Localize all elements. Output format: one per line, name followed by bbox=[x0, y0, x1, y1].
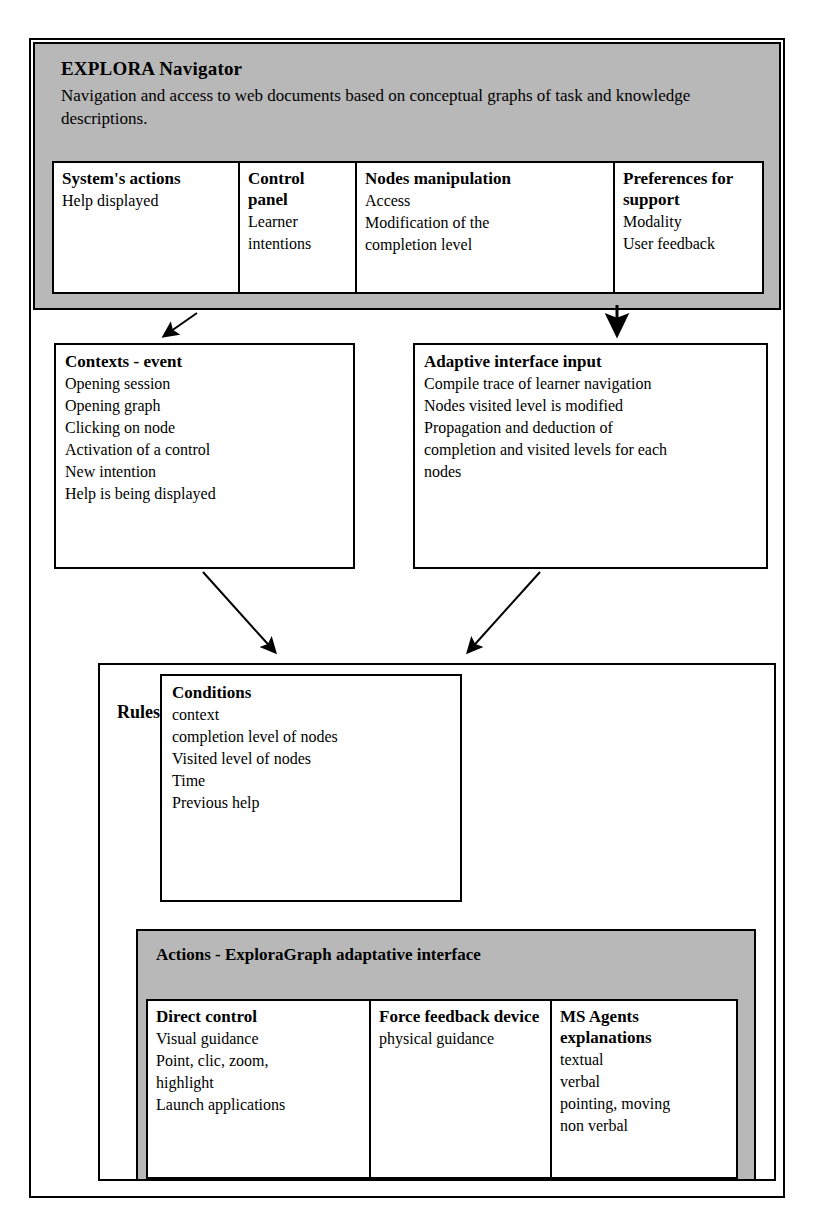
actions-column-title: Direct control bbox=[156, 1006, 361, 1027]
contexts-event-line: Help is being displayed bbox=[65, 483, 344, 505]
adaptive-interface-input-line: Nodes visited level is modified bbox=[424, 395, 757, 417]
page-title: EXPLORA Navigator bbox=[61, 58, 242, 80]
actions-column-line: physical guidance bbox=[379, 1028, 542, 1050]
adaptive-interface-input-box: Adaptive interface input Compile trace o… bbox=[413, 343, 768, 569]
diagram-page: EXPLORA Navigator Navigation and access … bbox=[0, 0, 822, 1223]
actions-column-direct-control: Direct control Visual guidance Point, cl… bbox=[148, 1001, 371, 1177]
header-column-line: Modification of the bbox=[365, 212, 606, 234]
rules-panel: Rules Conditions context completion leve… bbox=[98, 663, 776, 1181]
conditions-line: context bbox=[172, 704, 450, 726]
contexts-event-line: Opening session bbox=[65, 373, 344, 395]
contexts-event-line: New intention bbox=[65, 461, 344, 483]
contexts-event-box: Contexts - event Opening session Opening… bbox=[54, 343, 355, 569]
actions-column-line: non verbal bbox=[560, 1115, 728, 1137]
rules-label: Rules bbox=[117, 702, 160, 723]
actions-column-force-feedback-device: Force feedback device physical guidance bbox=[371, 1001, 552, 1177]
actions-column-line: textual bbox=[560, 1049, 728, 1071]
conditions-line: Previous help bbox=[172, 792, 450, 814]
conditions-line: Visited level of nodes bbox=[172, 748, 450, 770]
page-subtitle: Navigation and access to web documents b… bbox=[61, 84, 761, 130]
header-column-title: Preferences for support bbox=[623, 168, 755, 210]
actions-column-line: highlight bbox=[156, 1072, 361, 1094]
adaptive-interface-input-line: Compile trace of learner navigation bbox=[424, 373, 757, 395]
contexts-event-title: Contexts - event bbox=[65, 351, 344, 372]
conditions-line: completion level of nodes bbox=[172, 726, 450, 748]
explora-navigator-panel: EXPLORA Navigator Navigation and access … bbox=[33, 42, 781, 310]
conditions-box: Conditions context completion level of n… bbox=[160, 674, 462, 902]
header-column-title: Nodes manipulation bbox=[365, 168, 606, 189]
actions-column-line: Launch applications bbox=[156, 1094, 361, 1116]
actions-column-ms-agents-explanations: MS Agents explanations textual verbal po… bbox=[552, 1001, 736, 1177]
header-column-title: System's actions bbox=[62, 168, 231, 189]
actions-panel-title: Actions - ExploraGraph adaptative interf… bbox=[156, 945, 481, 965]
header-column-preferences-for-support: Preferences for support Modality User fe… bbox=[615, 163, 762, 292]
header-column-systems-actions: System's actions Help displayed bbox=[54, 163, 240, 292]
contexts-event-line: Opening graph bbox=[65, 395, 344, 417]
actions-panel: Actions - ExploraGraph adaptative interf… bbox=[136, 929, 756, 1181]
contexts-event-line: Activation of a control bbox=[65, 439, 344, 461]
adaptive-interface-input-title: Adaptive interface input bbox=[424, 351, 757, 372]
conditions-line: Time bbox=[172, 770, 450, 792]
header-column-line: Access bbox=[365, 190, 606, 212]
header-column-line: completion level bbox=[365, 234, 606, 256]
adaptive-interface-input-line: completion and visited levels for each bbox=[424, 439, 757, 461]
header-column-nodes-manipulation: Nodes manipulation Access Modification o… bbox=[357, 163, 615, 292]
conditions-title: Conditions bbox=[172, 682, 450, 703]
header-column-line: Help displayed bbox=[62, 190, 231, 212]
header-column-control-panel: Control panel Learner intentions bbox=[240, 163, 357, 292]
header-column-line: Learner bbox=[248, 211, 348, 233]
actions-column-title: Force feedback device bbox=[379, 1006, 542, 1027]
header-column-title: Control panel bbox=[248, 168, 348, 210]
actions-column-title: MS Agents explanations bbox=[560, 1006, 728, 1048]
header-column-line: User feedback bbox=[623, 233, 755, 255]
contexts-event-line: Clicking on node bbox=[65, 417, 344, 439]
header-column-line: Modality bbox=[623, 211, 755, 233]
adaptive-interface-input-line: Propagation and deduction of bbox=[424, 417, 757, 439]
actions-column-line: verbal bbox=[560, 1071, 728, 1093]
header-column-line: intentions bbox=[248, 233, 348, 255]
actions-column-line: pointing, moving bbox=[560, 1093, 728, 1115]
actions-column-line: Visual guidance bbox=[156, 1028, 361, 1050]
header-columns-group: System's actions Help displayed Control … bbox=[52, 161, 764, 294]
actions-columns-group: Direct control Visual guidance Point, cl… bbox=[146, 999, 738, 1179]
actions-column-line: Point, clic, zoom, bbox=[156, 1050, 361, 1072]
adaptive-interface-input-line: nodes bbox=[424, 461, 757, 483]
